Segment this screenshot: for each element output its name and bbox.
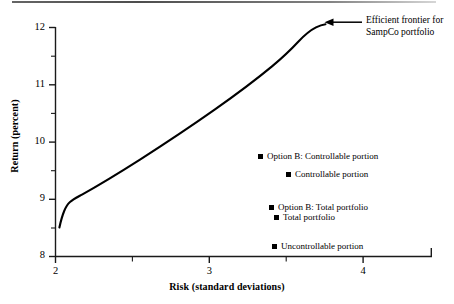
x-axis-title: Risk (standard deviations): [0, 281, 454, 292]
chart-figure: 12 11 10 9 8 2 3 4 Risk (standard deviat…: [0, 0, 454, 304]
marker-option-b-total-portfolio: Option B: Total portfolio: [269, 202, 368, 212]
square-marker-icon: [269, 205, 274, 210]
y-tick-label-8: 8: [25, 249, 45, 260]
y-tick-label-11: 11: [25, 78, 45, 89]
marker-label: Option B: Controllable portion: [267, 151, 378, 161]
marker-label: Controllable portion: [295, 169, 368, 179]
y-axis-title: Return (percent): [9, 71, 20, 201]
callout-line-2: SampCo portfolio: [366, 27, 443, 39]
marker-option-b-controllable-portion: Option B: Controllable portion: [258, 151, 378, 161]
x-axis-ticks: [56, 257, 364, 264]
y-axis-title-wrap: Return (percent): [9, 71, 23, 201]
square-marker-icon: [258, 154, 263, 159]
square-marker-icon: [272, 244, 277, 249]
efficient-frontier-callout-text: Efficient frontier for SampCo portfolio: [366, 15, 443, 38]
callout-arrow: [325, 18, 363, 26]
efficient-frontier-curve: [59, 24, 325, 227]
marker-uncontrollable-portion: Uncontrollable portion: [272, 241, 363, 251]
x-tick-label-2: 2: [46, 265, 66, 276]
x-tick-label-4: 4: [353, 265, 373, 276]
marker-controllable-portion: Controllable portion: [286, 169, 368, 179]
marker-label: Option B: Total portfolio: [278, 202, 368, 212]
marker-label: Total portfolio: [283, 212, 335, 222]
marker-label: Uncontrollable portion: [281, 241, 363, 251]
y-tick-label-12: 12: [25, 21, 45, 32]
y-axis-ticks: [49, 28, 56, 257]
efficient-frontier-plot: [0, 0, 454, 304]
x-tick-label-3: 3: [199, 265, 219, 276]
square-marker-icon: [274, 215, 279, 220]
y-tick-label-9: 9: [25, 192, 45, 203]
callout-line-1: Efficient frontier for: [366, 15, 443, 27]
y-tick-label-10: 10: [25, 135, 45, 146]
marker-total-portfolio: Total portfolio: [274, 212, 335, 222]
square-marker-icon: [286, 172, 291, 177]
axis-lines: [55, 27, 432, 257]
